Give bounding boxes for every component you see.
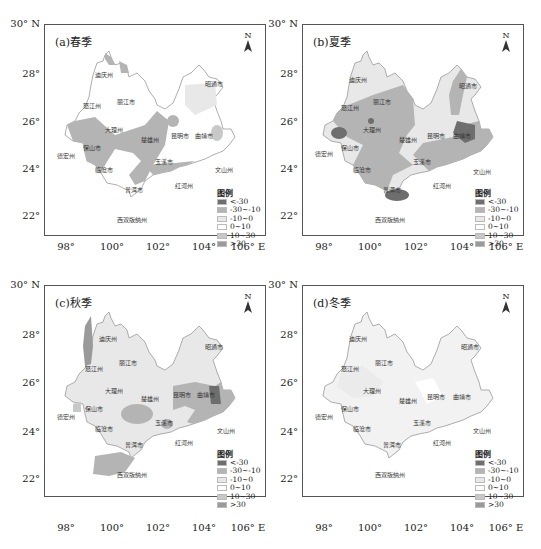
panel-title: (b)夏季 [313,33,351,49]
legend: 图例 <-30 -30~-10 -10~0 0~10 10~30 >30 [475,450,518,510]
region-label: 大理州 [105,386,123,395]
region-label: 迪庆州 [99,334,117,343]
region-label: 昆明市 [427,392,445,401]
x-tick-106: 106° E [486,522,526,533]
x-tick-100: 100° [350,522,390,533]
map-frame: (a)春季 N 图例 <-30 -30~-10 -10~0 0~10 10~30… [44,24,266,236]
region-label: 临沧市 [95,424,113,433]
map-frame: (d)冬季 N 图例 <-30 -30~-10 -10~0 0~10 10~30… [302,285,524,497]
region-label: 文山州 [473,167,491,176]
panel-spring: 30° N 28° 26° 24° 22° (a)春季 N 图例 <-30 -3… [0,0,270,274]
region-label: 大理州 [105,125,123,134]
legend: 图例 <-30 -30~-10 -10~0 0~10 10~30 >30 [475,189,518,249]
region-label: 曲靖市 [195,131,213,140]
map-frame: (b)夏季 N 图例 <-30 -30~-10 -10~0 0~10 10~30… [302,24,524,236]
region-label: 文山州 [217,426,235,435]
region-label: 红河州 [175,181,193,190]
y-tick-26: 26° [258,116,298,127]
legend-item: >30 [475,501,518,510]
panel-winter: 30° N 28° 26° 24° 22° (d)冬季 N 图例 <-30 -3… [270,275,540,549]
y-tick-28: 28° [258,68,298,79]
x-tick-104: 104° [442,241,482,252]
x-tick-106: 106° E [228,522,268,533]
region-label: 怒江州 [341,103,359,112]
region-label: 怒江州 [83,101,101,110]
region-label: 丽江市 [119,358,137,367]
region-label: 丽江市 [375,358,393,367]
region-label: 文山州 [473,426,491,435]
y-tick-24: 24° [0,426,40,437]
x-tick-98: 98° [304,241,344,252]
y-tick-30: 30° N [0,279,40,290]
region-label: 昭通市 [459,81,477,90]
region-label: 昭通市 [205,79,223,88]
region-label: 普洱市 [383,185,401,194]
y-tick-26: 26° [0,377,40,388]
panel-autumn: 30° N 28° 26° 24° 22° (c)秋季 N 图例 <-30 -3… [0,275,270,549]
y-tick-28: 28° [258,329,298,340]
region-label: 保山市 [85,404,103,413]
north-arrow-icon: N [499,31,513,52]
region-label: 普洱市 [125,440,143,449]
region-label: 保山市 [83,143,101,152]
x-tick-102: 102° [138,522,178,533]
region-label: 丽江市 [373,97,391,106]
region-label: 大理州 [363,386,381,395]
region-label: 西双版纳州 [117,470,147,479]
region-label: 昆明市 [173,390,191,399]
legend: 图例 <-30 -30~-10 -10~0 0~10 10~30 >30 [217,189,260,249]
region-label: 玉溪市 [155,418,173,427]
region-label: 丽江市 [117,97,135,106]
x-tick-104: 104° [442,522,482,533]
region-label: 西双版纳州 [117,215,147,224]
region-label: 西双版纳州 [375,215,405,224]
y-tick-22: 22° [0,210,40,221]
y-tick-26: 26° [0,116,40,127]
region-label: 临沧市 [353,424,371,433]
region-label: 楚雄州 [399,135,417,144]
panel-title: (d)冬季 [313,294,351,310]
y-tick-22: 22° [258,210,298,221]
region-label: 德宏州 [315,412,333,421]
region-label: 德宏州 [57,412,75,421]
x-tick-98: 98° [46,522,86,533]
x-tick-106: 106° E [228,241,268,252]
region-label: 昭通市 [205,342,223,351]
region-label: 玉溪市 [413,157,431,166]
region-label: 曲靖市 [197,390,215,399]
region-label: 楚雄州 [141,135,159,144]
region-label: 德宏州 [315,149,333,158]
region-label: 保山市 [341,404,359,413]
region-label: 楚雄州 [399,396,417,405]
region-label: 曲靖市 [453,131,471,140]
y-tick-24: 24° [258,163,298,174]
x-tick-98: 98° [46,241,86,252]
region-label: 临沧市 [353,165,371,174]
y-tick-22: 22° [258,473,298,484]
y-tick-30: 30° N [258,18,298,29]
region-label: 昭通市 [461,342,479,351]
x-tick-98: 98° [304,522,344,533]
x-tick-100: 100° [92,522,132,533]
region-label: 怒江州 [85,364,103,373]
region-label: 红河州 [175,438,193,447]
region-label: 怒江州 [341,364,359,373]
x-tick-102: 102° [396,241,436,252]
region-label: 玉溪市 [413,418,431,427]
region-label: 昆明市 [171,131,189,140]
north-arrow-icon: N [241,31,255,52]
y-tick-30: 30° N [0,18,40,29]
panel-title: (c)秋季 [55,294,92,310]
x-tick-100: 100° [350,241,390,252]
region-label: 普洱市 [383,440,401,449]
y-tick-24: 24° [0,163,40,174]
region-label: 玉溪市 [155,157,173,166]
legend: 图例 <-30 -30~-10 -10~0 0~10 10~30 >30 [217,450,260,510]
region-label: 迪庆州 [349,75,367,84]
x-tick-102: 102° [396,522,436,533]
region-label: 迪庆州 [95,70,113,79]
x-tick-106: 106° E [486,241,526,252]
y-tick-22: 22° [0,473,40,484]
region-label: 临沧市 [95,165,113,174]
y-tick-26: 26° [258,377,298,388]
